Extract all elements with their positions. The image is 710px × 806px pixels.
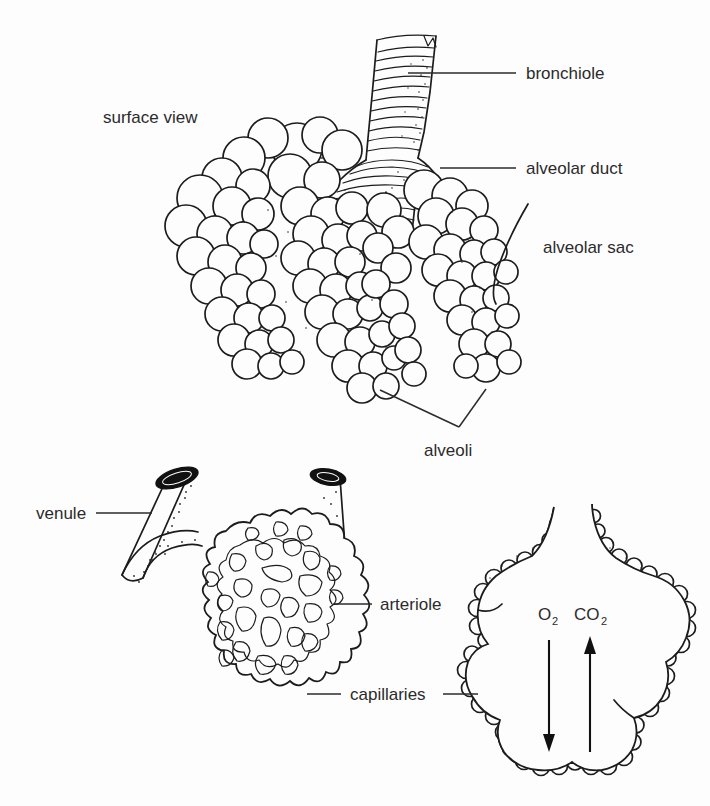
label-alveolar-duct: alveolar duct <box>526 159 623 178</box>
label-carbon-dioxide-symbol: CO <box>574 605 600 624</box>
alveoli-leader-left <box>380 390 459 427</box>
label-alveolar-sac: alveolar sac <box>543 238 634 257</box>
alveolus-cross-section-overlay <box>466 504 690 770</box>
label-alveoli: alveoli <box>424 441 472 460</box>
label-bronchiole: bronchiole <box>526 64 604 83</box>
capillary-network-sphere <box>203 509 370 686</box>
alveoli-clusters <box>165 117 521 403</box>
label-arteriole: arteriole <box>380 595 441 614</box>
figure-canvas: surface view bronchiole alveolar duct al… <box>0 0 710 806</box>
venule-structure <box>122 463 202 583</box>
surface-view-panel <box>165 35 528 427</box>
label-carbon-dioxide-subscript: 2 <box>601 615 607 627</box>
label-capillaries: capillaries <box>350 685 426 704</box>
alveoli-diagram-artwork: surface view bronchiole alveolar duct al… <box>0 0 710 806</box>
label-oxygen-symbol: O <box>538 605 551 624</box>
label-surface-view: surface view <box>103 108 198 127</box>
label-venule: venule <box>36 504 86 523</box>
bronchiole-structure <box>366 35 436 160</box>
gas-exchange-panel <box>443 504 696 776</box>
alveoli-leader-right <box>459 389 486 427</box>
label-oxygen-subscript: 2 <box>552 615 558 627</box>
capillary-network-panel <box>96 463 372 694</box>
